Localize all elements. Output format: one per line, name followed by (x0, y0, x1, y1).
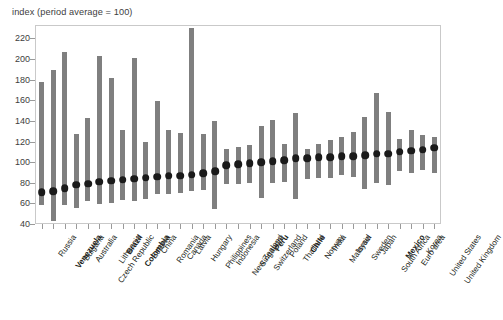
x-axis-label: Japan (378, 233, 398, 256)
x-axis-label: Russia (56, 233, 78, 258)
x-axis-label: Israel (354, 233, 373, 254)
x-axis-label: India (330, 233, 347, 253)
